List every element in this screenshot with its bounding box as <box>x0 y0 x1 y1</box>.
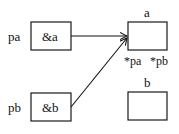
variable-a-annotation-pa: *pa <box>124 54 142 68</box>
variable-a-annotation-pb: *pb <box>150 54 168 68</box>
variable-b-box <box>128 92 167 120</box>
arrow-pb-to-a <box>71 38 127 107</box>
variable-a-name: a <box>144 5 150 20</box>
variable-a-box <box>128 22 167 50</box>
pointer-pa: pa &a <box>8 22 71 50</box>
pointer-pa-name: pa <box>8 29 21 44</box>
pointer-pb-name: pb <box>8 100 21 115</box>
variable-a: a *pa *pb <box>124 5 168 68</box>
pointer-pb: pb &b <box>8 93 71 121</box>
variable-b-name: b <box>144 75 151 90</box>
variable-b: b <box>128 75 167 120</box>
pointer-diagram: pa &a pb &b a *pa *pb b <box>0 0 179 134</box>
pointer-pb-value: &b <box>42 100 59 115</box>
pointer-pa-value: &a <box>42 29 58 44</box>
